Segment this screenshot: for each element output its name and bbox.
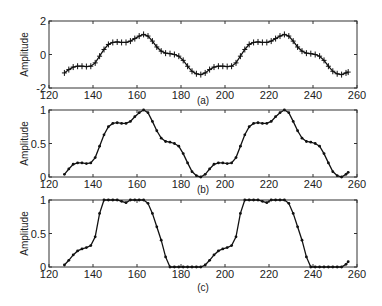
data-marker xyxy=(296,129,299,132)
data-marker xyxy=(133,199,136,202)
data-marker xyxy=(212,64,217,70)
data-marker xyxy=(177,145,180,148)
data-marker xyxy=(204,264,207,267)
data-marker xyxy=(282,31,287,37)
data-marker xyxy=(235,156,238,159)
data-marker xyxy=(125,201,128,204)
data-marker xyxy=(347,171,350,174)
panel-caption: (c) xyxy=(197,282,209,293)
data-marker xyxy=(301,137,304,140)
x-tick-label: 160 xyxy=(128,178,146,190)
data-marker xyxy=(273,36,278,42)
data-marker xyxy=(169,141,172,144)
data-line xyxy=(64,34,348,74)
data-marker xyxy=(313,52,318,58)
data-marker xyxy=(248,125,251,128)
data-marker xyxy=(160,239,163,242)
x-tick-label: 220 xyxy=(260,89,278,101)
x-tick-label: 200 xyxy=(216,178,234,190)
data-marker xyxy=(129,199,132,202)
data-marker xyxy=(230,162,233,165)
y-tick-label: 1 xyxy=(40,194,46,206)
data-marker xyxy=(340,176,343,179)
y-tick-label: -2 xyxy=(36,82,46,94)
data-marker xyxy=(89,162,92,165)
data-marker xyxy=(243,199,246,202)
y-tick-label: 0 xyxy=(40,49,46,61)
data-marker xyxy=(147,202,150,205)
data-marker xyxy=(221,248,224,251)
data-marker xyxy=(226,162,229,165)
data-marker xyxy=(81,162,84,165)
y-axis-label: Amplitude xyxy=(19,211,30,256)
data-marker xyxy=(230,244,233,247)
data-marker xyxy=(265,201,268,204)
panel-caption: (a) xyxy=(197,95,209,106)
data-marker xyxy=(257,121,260,124)
x-tick-label: 160 xyxy=(128,268,146,280)
data-marker xyxy=(301,239,304,242)
x-tick-label: 260 xyxy=(348,89,366,101)
data-marker xyxy=(191,170,194,173)
data-marker xyxy=(225,64,230,70)
data-marker xyxy=(84,64,89,70)
data-marker xyxy=(71,64,76,70)
data-marker xyxy=(173,266,176,269)
data-marker xyxy=(248,199,251,202)
data-marker xyxy=(292,120,295,123)
y-tick-label: 2 xyxy=(40,15,46,27)
data-marker xyxy=(287,111,290,114)
y-tick-label: 1 xyxy=(40,104,46,116)
data-marker xyxy=(243,133,246,136)
data-marker xyxy=(103,199,106,202)
data-marker xyxy=(199,266,202,269)
data-marker xyxy=(308,51,313,57)
data-marker xyxy=(287,202,290,205)
data-marker xyxy=(265,122,268,125)
data-marker xyxy=(138,199,141,202)
data-marker xyxy=(103,133,106,136)
x-tick-label: 260 xyxy=(348,268,366,280)
data-marker xyxy=(345,263,348,266)
data-marker xyxy=(85,246,88,249)
data-marker xyxy=(107,125,110,128)
data-marker xyxy=(195,266,198,269)
panel-caption: (b) xyxy=(197,184,209,195)
data-marker xyxy=(67,259,70,262)
data-marker xyxy=(327,266,330,269)
data-marker xyxy=(177,266,180,269)
data-marker xyxy=(111,199,114,202)
x-tick-label: 180 xyxy=(172,89,190,101)
data-marker xyxy=(120,200,123,203)
figure: 120140160180200220240260-202Amplitude(a)… xyxy=(0,0,382,306)
data-marker xyxy=(217,250,220,253)
data-marker xyxy=(204,173,207,176)
y-axis-label: Amplitude xyxy=(19,32,30,77)
panel-b: 12014016018020022024026000.51Amplitude(b… xyxy=(19,104,366,195)
data-marker xyxy=(160,137,163,140)
data-marker xyxy=(256,39,261,45)
x-tick-label: 140 xyxy=(84,268,102,280)
x-tick-label: 220 xyxy=(260,178,278,190)
x-tick-label: 260 xyxy=(348,178,366,190)
panel-a: 120140160180200220240260-202Amplitude(a) xyxy=(19,15,366,106)
x-tick-label: 140 xyxy=(84,89,102,101)
data-marker xyxy=(107,199,110,202)
data-marker xyxy=(191,266,194,269)
data-marker xyxy=(195,174,198,177)
x-tick-label: 220 xyxy=(260,268,278,280)
data-marker xyxy=(138,111,141,114)
data-marker xyxy=(220,63,225,69)
data-marker xyxy=(213,163,216,166)
data-marker xyxy=(318,145,321,148)
data-marker xyxy=(345,173,348,176)
data-marker xyxy=(335,71,340,77)
data-marker xyxy=(164,140,167,143)
data-marker xyxy=(85,162,88,165)
data-line xyxy=(64,110,348,177)
data-marker xyxy=(314,142,317,145)
data-marker xyxy=(151,120,154,123)
data-marker xyxy=(279,111,282,114)
data-marker xyxy=(235,235,238,238)
x-tick-label: 180 xyxy=(172,268,190,280)
